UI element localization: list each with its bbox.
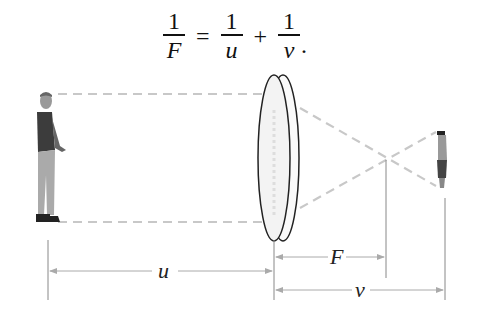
dimension-lines [48,160,445,300]
dimension-arrows [50,257,443,290]
person-object-icon [36,92,66,222]
inverted-image-icon [437,131,447,188]
light-rays [58,94,436,222]
convex-lens [258,75,299,241]
distance-u-label: u [158,258,169,283]
lens-diagram: u F v [0,0,477,312]
distance-v-label: v [355,277,365,302]
distance-F-label: F [329,244,344,269]
